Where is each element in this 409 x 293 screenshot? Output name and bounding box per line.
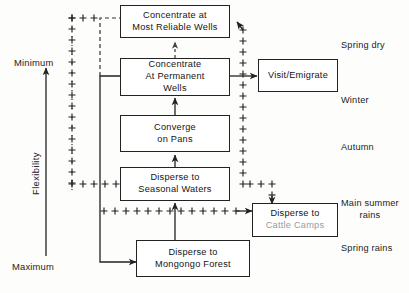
node-mongongo-forest[interactable]: Disperse to Mongongo Forest	[136, 240, 250, 277]
season-line-1: Main summer	[341, 198, 399, 210]
season-line-1: Winter	[341, 95, 369, 107]
node-visit-emigrate[interactable]: Visit/Emigrate	[258, 59, 338, 92]
season-label-spring-dry: Spring dry	[341, 40, 385, 52]
node-line-2: on Pans	[157, 134, 192, 146]
node-permanent-wells[interactable]: Concentrate At Permanent Wells	[120, 58, 230, 96]
node-line-1: Concentrate at	[143, 10, 207, 22]
plus-path-seasonal-to-cattle	[247, 181, 276, 205]
node-line-1: Disperse to	[150, 172, 199, 184]
axis-cap-maximum: Maximum	[12, 261, 54, 272]
season-line-1: Spring rains	[341, 243, 392, 255]
node-seasonal-waters[interactable]: Disperse to Seasonal Waters	[120, 167, 230, 201]
node-line-1: Disperse to	[168, 247, 217, 259]
node-line-1: Visit/Emigrate	[268, 70, 328, 82]
node-most-reliable-wells[interactable]: Concentrate at Most Reliable Wells	[120, 5, 230, 38]
season-line-1: Autumn	[341, 142, 374, 154]
node-cattle-camps[interactable]: Disperse to Cattle Camps	[252, 203, 338, 237]
node-line-2: At Permanent	[145, 71, 204, 83]
node-line-2: Seasonal Waters	[138, 184, 211, 196]
node-line-3: Wells	[163, 83, 187, 95]
season-label-main-summer-rains: Main summer rains	[341, 198, 399, 221]
edge-dashed-left-return-to-reliable	[100, 18, 120, 76]
node-line-1: Disperse to	[270, 208, 319, 220]
seasonal-mobility-diagram: Concentrate at Most Reliable Wells Conce…	[0, 0, 409, 293]
plus-path-left-to-seasonal	[69, 181, 120, 188]
node-line-2: Most Reliable Wells	[132, 22, 217, 34]
node-converge-on-pans[interactable]: Converge on Pans	[120, 115, 230, 152]
axis-title-flexibility: Flexibility	[30, 152, 41, 195]
plus-path-top-left-run	[69, 15, 98, 22]
season-line-1: Spring dry	[341, 40, 385, 52]
node-line-2: Cattle Camps	[266, 220, 325, 232]
node-line-1: Concentrate	[149, 59, 202, 71]
axis-cap-minimum: Minimum	[14, 57, 53, 68]
node-line-1: Converge	[154, 122, 196, 134]
plus-path-forest-to-cattle	[101, 208, 253, 215]
plus-path-left-envelope	[69, 15, 76, 191]
season-line-2: rains	[341, 210, 399, 222]
plus-path-right-envelope	[237, 22, 247, 188]
season-label-autumn: Autumn	[341, 142, 374, 154]
season-label-spring-rains: Spring rains	[341, 243, 392, 255]
node-line-2: Mongongo Forest	[155, 259, 231, 271]
season-label-winter: Winter	[341, 95, 369, 107]
